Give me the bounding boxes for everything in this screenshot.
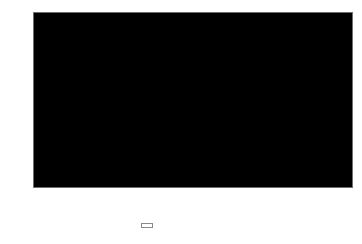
x-axis-tick-labels [0,0,362,244]
chart-legend [141,223,153,228]
